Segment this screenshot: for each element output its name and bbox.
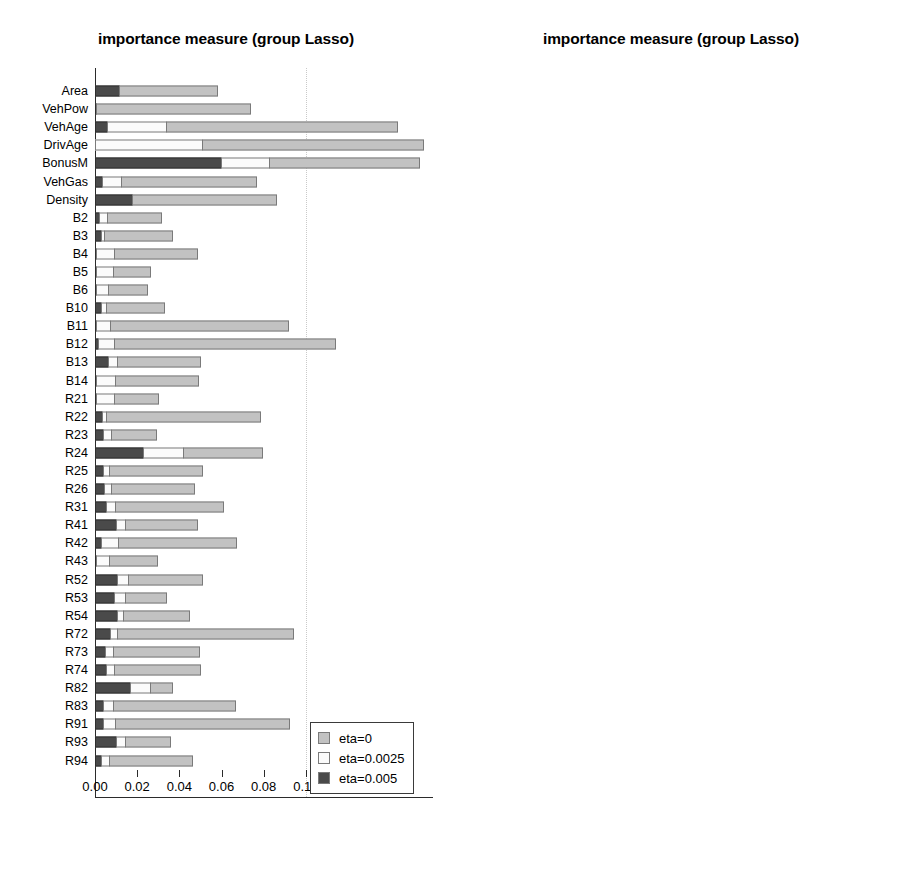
bar-segment [130, 683, 151, 694]
y-axis-tick-label: B3 [73, 229, 88, 243]
y-axis-tick-label: R53 [65, 591, 88, 605]
bar-segment [166, 122, 398, 133]
bar-segment [95, 86, 120, 97]
bar-segment [119, 86, 218, 97]
bar-row: R22 [95, 408, 425, 426]
bar-segment [107, 122, 166, 133]
bar-segment [221, 158, 271, 169]
stacked-bar [95, 230, 173, 241]
bar-row: R23 [95, 426, 425, 444]
stacked-bar [95, 176, 257, 187]
bar-row: R74 [95, 661, 425, 679]
y-axis-tick-label: R25 [65, 464, 88, 478]
tick-mark [179, 770, 180, 777]
stacked-bar [95, 285, 148, 296]
y-axis-tick-label: R21 [65, 392, 88, 406]
y-axis-tick-label: R54 [65, 609, 88, 623]
y-axis-tick-label: VehAge [44, 120, 88, 134]
tick-mark [137, 770, 138, 777]
tick-mark [264, 770, 265, 777]
legend-label: eta=0 [339, 731, 372, 746]
bar-segment [95, 158, 222, 169]
stacked-bar [95, 357, 201, 368]
bar-segment [128, 574, 203, 585]
bar-row: R73 [95, 643, 425, 661]
bar-row: Area [95, 82, 425, 100]
bar-row: R21 [95, 390, 425, 408]
y-axis-tick-label: B13 [66, 355, 88, 369]
bar-segment [98, 339, 115, 350]
bar-row: BonusM [95, 154, 425, 172]
stacked-bar [95, 140, 424, 151]
y-axis-tick-label: B14 [66, 374, 88, 388]
x-axis-tick-label: 0.08 [251, 779, 276, 794]
x-axis-tick-label: 0.06 [209, 779, 234, 794]
stacked-bar [95, 375, 199, 386]
bar-segment [101, 538, 119, 549]
bar-row: VehAge [95, 118, 425, 136]
stacked-bar [95, 737, 171, 748]
stacked-bar [95, 665, 201, 676]
bar-segment [183, 447, 264, 458]
legend-item: eta=0 [318, 728, 404, 748]
bar-row: B3 [95, 227, 425, 245]
bar-segment [95, 520, 117, 531]
bar-row: R31 [95, 498, 425, 516]
stacked-bar [95, 574, 203, 585]
y-axis-tick-label: R24 [65, 446, 88, 460]
y-axis-tick-label: R91 [65, 717, 88, 731]
bar-segment [113, 701, 236, 712]
y-axis-tick-label: B10 [66, 301, 88, 315]
bar-segment [123, 610, 190, 621]
bar-segment [150, 683, 174, 694]
chart-panel-right: importance measure (group Lasso) AreaVeh… [445, 0, 897, 872]
bar-segment [269, 158, 420, 169]
bar-segment [110, 321, 289, 332]
bar-row: Density [95, 191, 425, 209]
stacked-bar [95, 592, 167, 603]
bar-segment [143, 447, 183, 458]
stacked-bar [95, 393, 159, 404]
stacked-bar [95, 610, 190, 621]
bar-row: B13 [95, 353, 425, 371]
stacked-bar [95, 520, 198, 531]
stacked-bar [95, 122, 398, 133]
bar-segment [95, 683, 131, 694]
bar-row: R42 [95, 534, 425, 552]
stacked-bar [95, 701, 236, 712]
bar-segment [108, 285, 148, 296]
bar-segment [114, 248, 198, 259]
bar-segment [96, 393, 115, 404]
stacked-bar [95, 429, 157, 440]
bar-row: DrivAge [95, 136, 425, 154]
y-axis-tick-label: B5 [73, 265, 88, 279]
bar-segment [109, 556, 158, 567]
y-axis-tick-label: B4 [73, 247, 88, 261]
bar-rows-left: AreaVehPowVehAgeDrivAgeBonusMVehGasDensi… [95, 82, 425, 770]
stacked-bar [95, 194, 277, 205]
legend-swatch [318, 752, 330, 764]
stacked-bar [95, 556, 158, 567]
bar-row: R26 [95, 480, 425, 498]
stacked-bar [95, 104, 251, 115]
y-axis-tick-label: R82 [65, 681, 88, 695]
stacked-bar [95, 339, 336, 350]
y-axis-tick-label: R83 [65, 699, 88, 713]
y-axis-tick-label: R23 [65, 428, 88, 442]
stacked-bar [95, 266, 151, 277]
bar-segment [113, 646, 200, 657]
y-axis-tick-label: R42 [65, 536, 88, 550]
y-axis-tick-label: R31 [65, 500, 88, 514]
bar-segment [95, 628, 111, 639]
x-axis-tick-label: 0.00 [82, 779, 107, 794]
bar-row: R25 [95, 462, 425, 480]
figure-root: importance measure (group Lasso) AreaVeh… [0, 0, 897, 872]
bar-segment [132, 194, 277, 205]
x-axis-tick-label: 0.04 [167, 779, 192, 794]
bar-segment [114, 393, 159, 404]
y-axis-tick-label: R93 [65, 735, 88, 749]
y-axis-tick-label: VehPow [42, 102, 88, 116]
plot-area-left: AreaVehPowVehAgeDrivAgeBonusMVehGasDensi… [95, 68, 425, 798]
bar-segment [111, 429, 158, 440]
bar-row: R83 [95, 697, 425, 715]
